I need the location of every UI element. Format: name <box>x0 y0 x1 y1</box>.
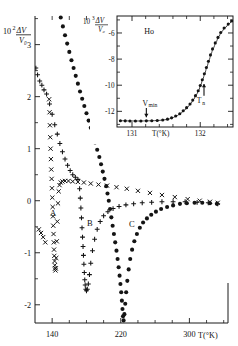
data-point-A <box>50 196 54 200</box>
data-point-B <box>82 270 87 275</box>
data-point-B <box>160 199 165 204</box>
data-point-B <box>83 283 88 288</box>
t-n-sublabel: n <box>202 100 205 106</box>
inset-data-point <box>166 118 169 121</box>
data-point-C <box>122 312 126 316</box>
data-point-A <box>160 193 164 197</box>
inset-data-point <box>178 112 181 115</box>
inset-data-point <box>201 78 204 81</box>
inset-data-point <box>203 72 206 75</box>
inset-data-point <box>188 102 191 105</box>
data-point-A <box>37 227 41 231</box>
data-point-C <box>141 221 145 225</box>
data-point-B <box>87 272 92 277</box>
inset-data-point <box>209 53 212 56</box>
inset-background <box>90 0 238 144</box>
inset-y-axis-label-num: ΔV <box>95 17 106 25</box>
data-point-C <box>119 290 123 294</box>
data-point-C <box>65 42 69 46</box>
data-point-A <box>47 110 51 114</box>
inset-data-point <box>227 23 230 26</box>
data-point-B <box>78 206 83 211</box>
data-point-C <box>193 201 197 205</box>
inset-y-tick-label: -12 <box>105 108 115 116</box>
data-point-C <box>80 97 84 101</box>
data-point-B <box>79 215 84 220</box>
data-point-C <box>120 299 124 303</box>
data-point-C <box>215 202 219 206</box>
main-y-tick-label: 1 <box>27 145 31 154</box>
inset-data-point <box>182 109 185 112</box>
inset-data-point <box>134 119 137 122</box>
data-point-B <box>149 200 154 205</box>
main-y-tick-label: -1 <box>24 249 31 258</box>
data-point-C <box>138 226 142 230</box>
data-point-B <box>86 282 91 287</box>
data-point-B <box>80 225 85 230</box>
main-y-tick-label: 0 <box>27 197 31 206</box>
data-point-A <box>66 179 70 183</box>
data-point-C <box>109 215 113 219</box>
data-point-C <box>113 240 117 244</box>
data-point-C <box>130 248 134 252</box>
data-point-C <box>69 58 73 62</box>
svg-text:10: 10 <box>3 27 11 36</box>
data-point-B <box>81 262 86 267</box>
data-point-A <box>148 191 152 195</box>
data-point-A <box>57 189 61 193</box>
inset-sample-label: Ho <box>144 27 154 36</box>
data-point-A <box>82 180 86 184</box>
inset-data-point <box>211 47 214 50</box>
data-point-C <box>178 202 182 206</box>
data-point-B <box>63 157 68 162</box>
data-point-C <box>61 24 65 28</box>
data-point-C <box>99 162 103 166</box>
data-point-C <box>145 216 149 220</box>
data-point-B <box>57 141 62 146</box>
inset-data-point <box>191 99 194 102</box>
inset-data-point <box>216 36 219 39</box>
data-point-B <box>70 172 75 177</box>
data-point-C <box>102 177 106 181</box>
data-point-C <box>118 274 122 278</box>
data-point-C <box>171 203 175 207</box>
inset-data-point <box>197 89 200 92</box>
inset-data-point <box>139 119 142 122</box>
data-point-B <box>101 213 106 218</box>
data-point-B <box>37 79 42 84</box>
inset-data-point <box>128 119 131 122</box>
svg-text:V₀: V₀ <box>19 36 27 45</box>
data-point-B <box>44 92 49 97</box>
data-point-C <box>124 290 128 294</box>
inset-data-point <box>207 60 210 63</box>
data-point-C <box>125 279 129 283</box>
data-point-C <box>111 224 115 228</box>
data-point-A <box>50 186 54 190</box>
data-point-A <box>48 123 52 127</box>
inset-x-axis-label: T(°K) <box>152 130 170 138</box>
data-point-A <box>41 235 45 239</box>
data-point-C <box>59 16 63 20</box>
data-point-C <box>165 205 169 209</box>
curve-label-C: C <box>129 219 135 229</box>
ultrasonic-velocity-figure: 3210-1-2140220300T(°K)102ΔVV₀ABC-6-8-10-… <box>0 0 238 346</box>
inset-y-axis-label-base: 10 <box>83 18 91 26</box>
inset-y-tick-label: -8 <box>109 56 115 64</box>
data-point-C <box>63 33 67 37</box>
inset-data-point <box>145 119 148 122</box>
data-point-B <box>140 200 145 205</box>
data-point-C <box>105 191 109 195</box>
data-point-C <box>117 265 121 269</box>
data-point-B <box>65 163 70 168</box>
data-point-C <box>116 257 120 261</box>
data-point-A <box>49 157 53 161</box>
data-point-C <box>112 232 116 236</box>
data-point-C <box>84 111 88 115</box>
main-x-tick-label: 220 <box>115 330 127 339</box>
data-point-A <box>96 182 100 186</box>
inset-y-tick-label: -10 <box>105 82 115 90</box>
data-point-B <box>131 201 136 206</box>
data-point-A <box>48 135 52 139</box>
inset-data-point <box>161 118 164 121</box>
t-n-label: T <box>197 96 202 105</box>
